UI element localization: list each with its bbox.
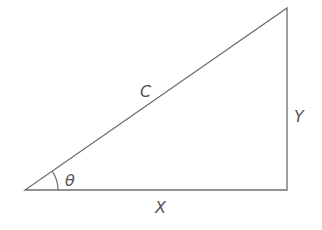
triangle-outline (25, 8, 287, 190)
angle-arc (52, 171, 58, 190)
hypotenuse-label: C (140, 82, 152, 101)
adjacent-label: X (154, 198, 167, 217)
right-triangle-diagram: C X Y θ (0, 0, 322, 230)
opposite-label: Y (294, 107, 305, 126)
angle-label: θ (65, 171, 75, 190)
